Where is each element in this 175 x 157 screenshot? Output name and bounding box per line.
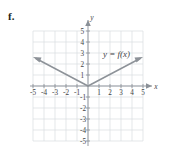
function-equation-label: y = f(x) bbox=[102, 49, 130, 59]
y-tick-label: -2 bbox=[80, 105, 86, 113]
y-tick-label: 3 bbox=[80, 50, 84, 58]
x-tick-label: 4 bbox=[130, 89, 134, 97]
y-tick-label: 2 bbox=[80, 61, 84, 69]
x-tick-label: 1 bbox=[97, 89, 101, 97]
y-axis-name: y bbox=[89, 13, 94, 22]
y-tick-label: 4 bbox=[80, 39, 84, 47]
y-axis bbox=[85, 20, 91, 146]
plot-svg: -5 -4 -3 -2 -1 1 2 3 4 5 5 4 3 2 1 -1 bbox=[0, 0, 175, 157]
y-axis-tick-labels-positive: 5 4 3 2 1 bbox=[80, 28, 84, 80]
x-tick-label: 2 bbox=[108, 89, 112, 97]
x-tick-label: -4 bbox=[41, 89, 47, 97]
x-tick-label: 5 bbox=[141, 89, 145, 97]
x-tick-label: -5 bbox=[30, 89, 36, 97]
x-tick-label: -2 bbox=[63, 89, 69, 97]
y-tick-label: 1 bbox=[80, 72, 84, 80]
y-tick-label: -1 bbox=[80, 94, 86, 102]
x-tick-label: -3 bbox=[52, 89, 58, 97]
x-axis-name: x bbox=[153, 82, 158, 91]
y-tick-label: -4 bbox=[80, 127, 86, 135]
y-axis-tick-labels-negative: -1 -2 -3 -4 -5 bbox=[80, 94, 86, 146]
figure-panel: f. bbox=[0, 0, 175, 157]
y-tick-label: 5 bbox=[80, 28, 84, 36]
coordinate-plot: -5 -4 -3 -2 -1 1 2 3 4 5 5 4 3 2 1 -1 bbox=[0, 0, 175, 157]
y-tick-label: -5 bbox=[80, 138, 86, 146]
x-tick-label: 3 bbox=[119, 89, 123, 97]
y-tick-label: -3 bbox=[80, 116, 86, 124]
